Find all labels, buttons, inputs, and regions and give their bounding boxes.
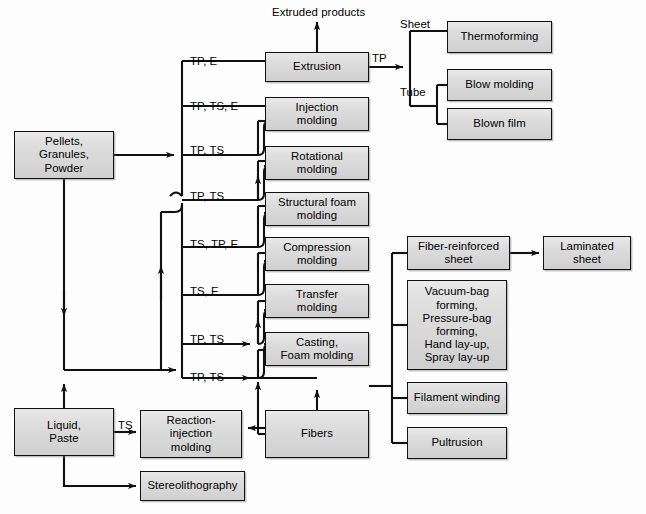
node-label: Blow molding [463, 78, 535, 91]
node-label: Fiber-reinforcedsheet [416, 240, 501, 266]
node-label: Filament winding [412, 391, 502, 404]
node-label: Thermoforming [459, 30, 541, 43]
node-blow-molding[interactable]: Blow molding [447, 69, 552, 101]
label-tube: Tube [400, 86, 426, 99]
node-stereolithography[interactable]: Stereolithography [140, 471, 245, 501]
node-label: Blown film [471, 117, 527, 130]
node-label: Pultrusion [429, 436, 484, 449]
label-ts-e: TS, E [190, 285, 219, 298]
node-thermoforming[interactable]: Thermoforming [447, 21, 552, 53]
node-label: Structural foammolding [276, 196, 358, 222]
node-injection-molding[interactable]: Injectionmolding [265, 97, 369, 131]
wire-hop [170, 193, 182, 197]
node-reaction-injection-molding[interactable]: Reaction-injectionmolding [140, 410, 242, 458]
node-label: Rotationalmolding [289, 150, 345, 176]
node-label: Fibers [299, 427, 335, 440]
node-label: Liquid,Paste [45, 419, 83, 445]
node-blown-film[interactable]: Blown film [447, 108, 552, 140]
node-filament-winding[interactable]: Filament winding [407, 382, 507, 414]
label-sheet: Sheet [400, 18, 430, 31]
node-fibers[interactable]: Fibers [265, 410, 369, 458]
node-label: Compressionmolding [281, 241, 353, 267]
node-structural-foam-molding[interactable]: Structural foammolding [265, 192, 369, 226]
node-pellets[interactable]: Pellets,Granules,Powder [14, 131, 114, 179]
node-extrusion[interactable]: Extrusion [265, 52, 369, 82]
label-extruded-products: Extruded products [272, 6, 365, 19]
node-rotational-molding[interactable]: Rotationalmolding [265, 146, 369, 180]
node-label: Transfermolding [294, 288, 340, 314]
label-tp-extrusion-out: TP [372, 52, 387, 65]
flowchart-canvas: Pellets,Granules,Powder Liquid,Paste Ste… [0, 0, 646, 514]
jog-feedback-top [175, 205, 182, 212]
label-ts-tp-e: TS, TP, E [190, 238, 238, 251]
label-tp-e: TP, E [190, 55, 217, 68]
node-fiber-reinforced-sheet[interactable]: Fiber-reinforcedsheet [407, 236, 510, 270]
node-liquid-paste[interactable]: Liquid,Paste [14, 408, 114, 456]
node-casting-foam-molding[interactable]: Casting,Foam molding [265, 332, 369, 366]
label-tp-ts-fibers: TP, TS [190, 371, 224, 384]
node-label: Extrusion [291, 60, 343, 73]
node-label: Injectionmolding [294, 101, 341, 127]
node-laminated-sheet[interactable]: Laminatedsheet [543, 236, 631, 270]
node-pultrusion[interactable]: Pultrusion [407, 427, 507, 459]
node-label: Pellets,Granules,Powder [37, 135, 91, 175]
label-ts-rim: TS [118, 419, 133, 432]
label-tp-ts-casting: TP, TS [190, 333, 224, 346]
label-tp-ts-structfoam: TP, TS [190, 190, 224, 203]
node-compression-molding[interactable]: Compressionmolding [265, 237, 369, 271]
node-label: Laminatedsheet [558, 240, 616, 266]
node-label: Casting,Foam molding [279, 336, 356, 362]
node-label: Reaction-injectionmolding [164, 414, 217, 454]
wire-liquid-to-stereo [64, 456, 136, 486]
node-label: Vacuum-bagforming,Pressure-bagforming,Ha… [421, 285, 494, 364]
node-vacuum-bag-forming[interactable]: Vacuum-bagforming,Pressure-bagforming,Ha… [407, 280, 507, 370]
label-tp-ts-e: TP, TS, E [190, 100, 238, 113]
node-label: Stereolithography [145, 479, 239, 492]
label-tp-ts-rotational: TP, TS [190, 144, 224, 157]
node-transfer-molding[interactable]: Transfermolding [265, 284, 369, 318]
